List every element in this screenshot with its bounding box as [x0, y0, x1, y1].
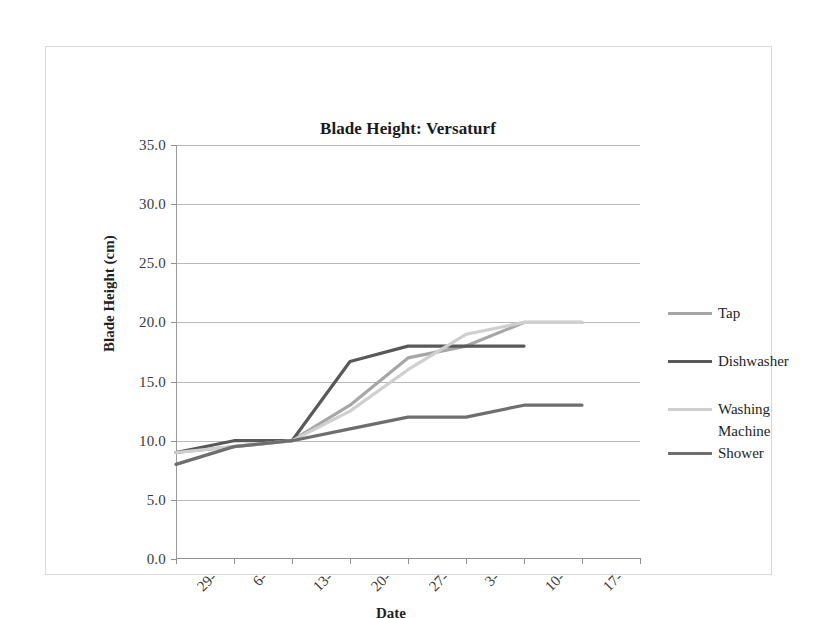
x-axis-tick-label: 29- — [194, 569, 220, 595]
x-axis-tick-label: 3- — [482, 569, 503, 590]
series-line — [176, 346, 524, 452]
legend-item[interactable]: Machine — [668, 423, 770, 440]
legend-color-swatch — [668, 408, 712, 411]
y-axis-title: Blade Height (cm) — [101, 235, 118, 352]
legend-item[interactable]: Washing — [668, 401, 770, 418]
legend-label: Machine — [718, 423, 770, 440]
x-axis-title: Date — [376, 605, 406, 618]
x-axis-tick-label: 17- — [600, 569, 626, 595]
legend-label: Shower — [718, 445, 764, 462]
legend-color-swatch — [668, 360, 712, 363]
series-line — [176, 322, 582, 452]
y-axis-tick-label: 15.0 — [139, 373, 166, 390]
x-axis-tick — [640, 558, 641, 564]
x-axis-tick-label: 6- — [250, 569, 271, 590]
y-axis-tick-label: 20.0 — [139, 314, 166, 331]
chart-page: Blade Height: Versaturf Blade Height (cm… — [0, 0, 819, 618]
legend-color-swatch — [668, 452, 712, 455]
x-axis-tick-label: 13- — [310, 569, 336, 595]
legend-item[interactable]: Tap — [668, 305, 740, 322]
legend-label: Tap — [718, 305, 740, 322]
legend-item[interactable]: Shower — [668, 445, 764, 462]
y-axis-tick-label: 10.0 — [139, 432, 166, 449]
series-line — [176, 322, 582, 452]
legend-color-swatch — [668, 312, 712, 315]
chart-frame: Blade Height: Versaturf Blade Height (cm… — [45, 46, 772, 575]
legend-label: Washing — [718, 401, 770, 418]
legend-label: Dishwasher — [718, 353, 789, 370]
y-axis-tick-label: 25.0 — [139, 255, 166, 272]
series-lines — [176, 145, 640, 559]
x-axis-tick-label: 20- — [368, 569, 394, 595]
y-axis-tick-label: 35.0 — [139, 137, 166, 154]
y-axis-tick-label: 5.0 — [147, 491, 166, 508]
series-line — [176, 405, 582, 464]
legend-item[interactable]: Dishwasher — [668, 353, 789, 370]
chart-title: Blade Height: Versaturf — [176, 119, 640, 139]
legend-spacer — [668, 430, 712, 433]
y-axis-tick-label: 0.0 — [147, 551, 166, 568]
plot-area: 0.05.010.015.020.025.030.035.0 29-6-13-2… — [176, 145, 640, 559]
x-axis-tick-label: 27- — [426, 569, 452, 595]
y-axis-tick-label: 30.0 — [139, 196, 166, 213]
x-axis-tick-label: 10- — [542, 569, 568, 595]
